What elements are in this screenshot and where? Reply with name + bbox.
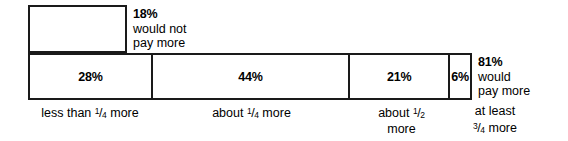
bar-segment-value-3: 6% (451, 70, 469, 84)
would-not-pay-more-line2: pay more (133, 36, 253, 51)
would-not-pay-more-callout: 18% would not pay more (133, 7, 253, 51)
axis-label-text-1-pre: about (212, 106, 247, 120)
axis-label-group: less than 1/4 more about 1/4 more about … (28, 104, 472, 140)
would-pay-more-line2: pay more (478, 84, 566, 99)
bar-segment-value-1: 44% (238, 70, 262, 84)
axis-label-about-half-line2: more (351, 122, 452, 137)
bar-segment-about-half: 21% (350, 55, 450, 98)
bar-segment-value-0: 28% (78, 70, 102, 84)
would-not-pay-more-line1: would not (133, 22, 253, 37)
axis-label-at-least-line2: 3/4 more (449, 119, 541, 137)
axis-label-text-0-pre: less than (41, 106, 95, 120)
would-not-pay-more-percent: 18% (133, 7, 253, 22)
axis-label-at-least-three-quarters: at least 3/4 more (449, 104, 541, 137)
fraction-three-quarters: 3/4 (473, 119, 485, 137)
axis-label-text-2-pre: about (378, 106, 413, 120)
bar-segment-at-least-three-quarters: 6% (450, 55, 470, 98)
would-pay-more-callout: 81% would pay more (478, 55, 566, 99)
fraction-one-half: 1/2 (413, 104, 425, 122)
would-pay-more-line1: would (478, 70, 566, 85)
fraction-one-quarter-0: 1/4 (95, 104, 107, 122)
would-pay-more-percent: 81% (478, 55, 566, 70)
fraction-one-quarter-1: 1/4 (247, 104, 259, 122)
axis-label-about-quarter: about 1/4 more (152, 104, 351, 122)
bar-segment-about-quarter: 44% (153, 55, 350, 98)
axis-label-about-half-line1: about 1/2 (351, 104, 452, 122)
stacked-bar: 28% 44% 21% 6% (28, 53, 472, 100)
fraction-denominator-2: 2 (420, 110, 425, 120)
axis-label-at-least-line1: at least (449, 104, 541, 119)
chart-figure: 18% would not pay more 28% 44% 21% 6% 81… (0, 0, 568, 141)
bar-segment-less-than-quarter: 28% (30, 55, 153, 98)
axis-label-text-1-post: more (259, 106, 291, 120)
axis-label-text-3-post: more (485, 121, 517, 135)
axis-label-text-0-post: more (107, 106, 139, 120)
axis-label-about-half: about 1/2 more (351, 104, 452, 137)
axis-label-less-than-quarter: less than 1/4 more (22, 104, 158, 122)
would-not-pay-more-box (28, 5, 127, 53)
bar-segment-value-2: 21% (387, 70, 411, 84)
